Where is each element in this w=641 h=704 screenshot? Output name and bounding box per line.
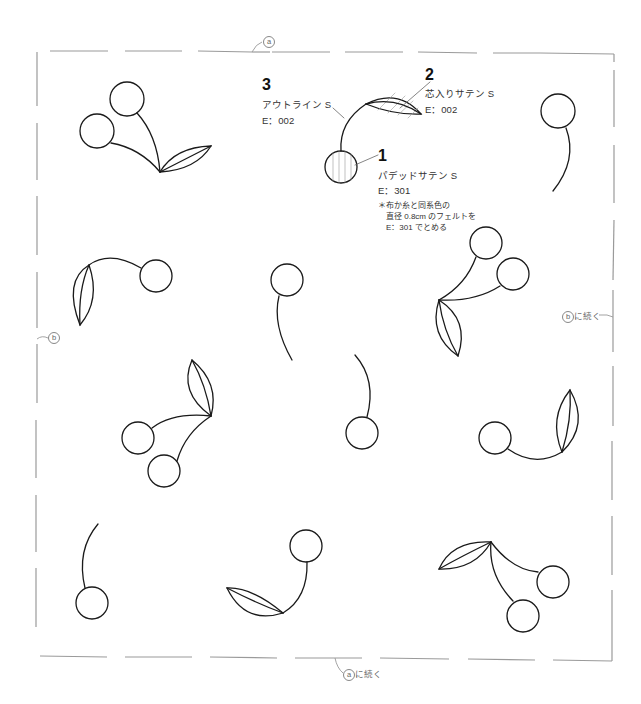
marker-b-left-leader (37, 337, 48, 339)
legend-3-thread: E：002 (262, 115, 294, 127)
legend-3-stitch: アウトライン S (262, 99, 331, 111)
cherry-motif-center-lower (346, 355, 378, 449)
marker-b-right: bに続く (562, 309, 601, 323)
marker-letter-b: b (48, 332, 60, 344)
marker-a-top-leader (252, 42, 262, 52)
cherry-motif-top-right (541, 94, 575, 191)
marker-letter-b: b (562, 311, 574, 323)
legend-2-number: 2 (425, 67, 434, 83)
cherry-motif-bottom-left (76, 524, 108, 619)
marker-a-bottom-leader (335, 658, 343, 673)
cherry-motif-bottom-center (227, 530, 322, 616)
marker-b-right-leader (599, 315, 613, 317)
cherry-motif-top-left (80, 82, 211, 172)
marker-letter-a: a (263, 36, 275, 48)
marker-a-bottom: aに続く (343, 667, 382, 681)
legend-1-note: ＊布か糸と同系色の 直径 0.8cm のフェルトを E：301 でとめる (378, 200, 476, 233)
legend-1-thread: E：301 (378, 185, 410, 197)
marker-b-right-text: に続く (574, 311, 601, 321)
cherry-motif-left-lower (122, 360, 213, 487)
marker-a-top: a (263, 36, 275, 48)
legend-2-thread: E：002 (425, 104, 457, 116)
cherry-motif-left-middle (73, 258, 172, 325)
legend-2-stitch: 芯入りサテン S (425, 88, 494, 100)
cherry-motif-right-upper (436, 227, 529, 356)
cherry-motif-right-lower (479, 390, 578, 459)
cherry-motif-bottom-right (439, 542, 569, 632)
marker-a-bottom-text: に続く (355, 669, 382, 679)
legend-1-stitch: パデッドサテン S (378, 170, 457, 182)
cherry-motif-center-upper (271, 264, 303, 360)
marker-letter-a: a (343, 669, 355, 681)
legend-3-number: 3 (262, 77, 271, 93)
marker-b-left: b (48, 332, 60, 344)
cherry-motif-annotated (325, 82, 430, 183)
legend-1-number: 1 (378, 148, 387, 164)
